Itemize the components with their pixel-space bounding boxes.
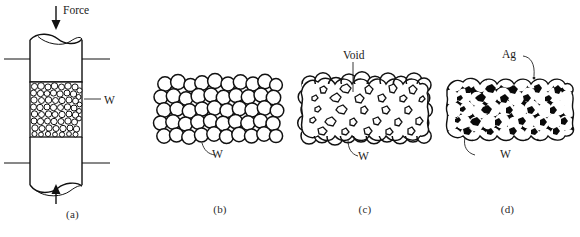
label-silver: Ag	[502, 48, 516, 60]
sintering-process-figure: Force W W Void W Ag W (a) (b) (c) (d)	[0, 0, 580, 237]
tungsten-particles-b	[154, 74, 284, 145]
caption-a: (a)	[0, 208, 145, 220]
label-tungsten-b: W	[212, 148, 223, 160]
panel-b-loose-powder	[145, 0, 295, 237]
silver-leader	[523, 56, 535, 79]
panel-d-infiltrated	[435, 0, 580, 237]
caption-d: (d)	[435, 203, 580, 215]
label-tungsten-d: W	[500, 148, 511, 160]
panel-c-sintered	[290, 0, 440, 237]
caption-b: (b)	[145, 203, 295, 215]
label-force: Force	[63, 4, 89, 16]
silver-matrix	[443, 72, 579, 144]
tungsten-particles-a	[31, 83, 83, 137]
label-tungsten-c: W	[358, 150, 369, 162]
powder-cavity	[30, 82, 82, 137]
label-void: Void	[343, 49, 365, 61]
panel-a-compaction	[0, 0, 145, 237]
panel-c-drawing	[290, 0, 440, 237]
panel-b-drawing	[145, 0, 295, 237]
caption-c: (c)	[290, 203, 440, 215]
label-tungsten-a: W	[104, 94, 115, 106]
upper-punch	[30, 34, 82, 82]
panel-d-drawing	[435, 0, 580, 237]
sintered-skeleton-c	[298, 72, 433, 145]
panel-a-drawing	[0, 0, 145, 237]
force-arrow-down-icon	[52, 6, 61, 30]
